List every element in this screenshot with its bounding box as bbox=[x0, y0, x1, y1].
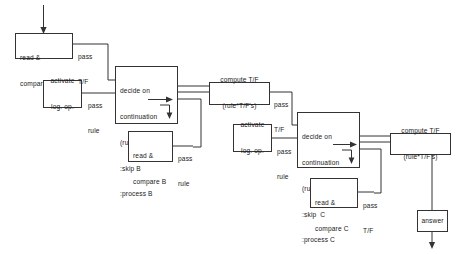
edge-label-b-out-line1: pass bbox=[178, 155, 193, 163]
edge-label-compute1-out-line1: pass bbox=[274, 101, 289, 109]
node-activate-1-line2: log. op. bbox=[51, 103, 75, 112]
node-read-compare-b-line2: compare B bbox=[133, 178, 168, 187]
node-read-compare-b-line1: read & bbox=[133, 152, 168, 161]
node-read-compare-a[interactable]: read & compare A bbox=[15, 33, 73, 59]
node-read-compare-c[interactable]: read & compare C bbox=[310, 178, 358, 208]
edge-label-c-out-line1: pass bbox=[363, 202, 378, 210]
node-activate-2-line1: activate bbox=[241, 121, 265, 130]
edge-label-c-out-line2: T/F bbox=[363, 227, 378, 235]
edge-label-a-out-line1: pass bbox=[78, 53, 93, 61]
edge-label-activate2-out: pass rule bbox=[277, 131, 292, 198]
edge-label-b-out-line2: rule bbox=[178, 180, 193, 188]
node-activate-2-line2: log. op. bbox=[241, 147, 265, 156]
node-read-compare-c-line1: read & bbox=[315, 199, 353, 208]
edge-label-c-out: pass T/F bbox=[363, 185, 378, 252]
node-compute-2-line1: compute T/F bbox=[401, 127, 440, 136]
process-b-arrow-icon bbox=[160, 103, 174, 120]
node-compute-tf-1[interactable]: compute T/F (rule*T/F's) bbox=[209, 82, 270, 105]
node-answer-line1: answer bbox=[421, 217, 443, 226]
edge-label-activate1-out-line1: pass bbox=[88, 102, 103, 110]
node-activate-1-line1: activate bbox=[51, 77, 75, 86]
node-compute-1-line1: compute T/F bbox=[220, 76, 259, 85]
edge-label-activate2-out-line1: pass bbox=[277, 148, 292, 156]
process-c-arrow-icon bbox=[342, 148, 356, 165]
edge-label-activate2-out-line2: rule bbox=[277, 173, 292, 181]
node-answer[interactable]: answer bbox=[417, 210, 448, 232]
node-read-compare-c-line2: compare C bbox=[315, 225, 353, 234]
node-compute-tf-2[interactable]: compute T/F (rule*T/F's) bbox=[390, 133, 451, 155]
edge-label-activate1-out-line2: rule bbox=[88, 127, 103, 135]
edge-label-b-out: pass rule bbox=[178, 138, 193, 205]
flowchart-canvas: read & compare A decide on continuation … bbox=[0, 0, 463, 254]
node-read-compare-b[interactable]: read & compare B bbox=[128, 131, 173, 162]
node-activate-log-op-1[interactable]: activate log. op. bbox=[43, 80, 82, 108]
node-activate-log-op-2[interactable]: activate log. op. bbox=[233, 124, 272, 152]
edge-label-activate1-out: pass rule bbox=[88, 85, 103, 152]
node-compute-2-line2: (rule*T/F's) bbox=[401, 153, 440, 162]
